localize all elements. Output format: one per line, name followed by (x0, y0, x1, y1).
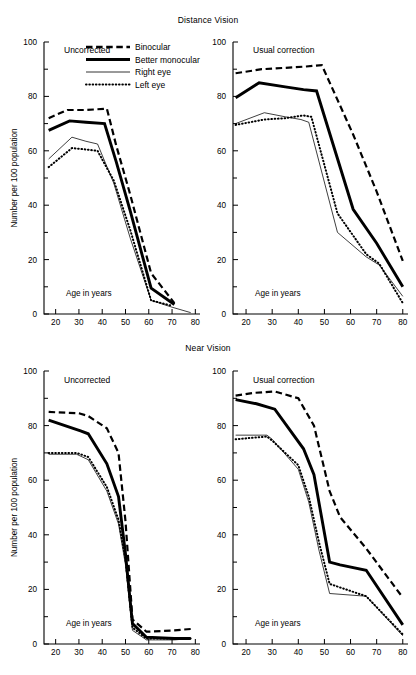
x-tick-label: 50 (320, 318, 330, 327)
x-tick-label: 30 (268, 648, 278, 657)
series-line-right-eye (236, 113, 403, 297)
y-tick-label: 100 (212, 38, 226, 47)
x-axis-title: Age in years (255, 619, 301, 628)
x-tick-label: 30 (74, 648, 84, 657)
y-tick-label: 80 (28, 92, 38, 101)
y-tick-label: 40 (28, 531, 38, 540)
series-line-left-eye (236, 115, 403, 303)
y-tick-label: 20 (217, 256, 227, 265)
series-line-left-eye (236, 437, 403, 635)
y-tick-label: 40 (217, 531, 227, 540)
y-tick-label: 100 (23, 38, 37, 47)
x-tick-label: 60 (144, 318, 154, 327)
x-tick-label: 80 (398, 648, 408, 657)
series-line-left-eye (49, 453, 191, 639)
x-tick-label: 20 (242, 318, 252, 327)
x-axis-title: Age in years (66, 289, 112, 298)
y-tick-label: 0 (221, 310, 226, 319)
y-tick-label: 0 (32, 310, 37, 319)
y-tick-label: 60 (28, 147, 38, 156)
x-tick-label: 60 (346, 318, 356, 327)
x-tick-label: 20 (51, 318, 61, 327)
x-tick-label: 60 (144, 648, 154, 657)
y-tick-label: 40 (217, 201, 227, 210)
x-axis-title: Age in years (255, 289, 301, 298)
x-tick-label: 50 (121, 318, 131, 327)
series-line-better-monocular (236, 400, 403, 625)
y-tick-label: 20 (217, 585, 227, 594)
x-tick-label: 80 (191, 648, 201, 657)
chart-svg: 02040608010020304050607080UncorrectedAge… (0, 0, 416, 675)
x-tick-label: 80 (398, 318, 408, 327)
legend-label-right_eye: Right eye (135, 67, 171, 77)
y-tick-label: 0 (221, 640, 226, 649)
series-line-right-eye (49, 137, 191, 312)
series-line-binocular (49, 109, 175, 303)
y-tick-label: 100 (23, 367, 37, 376)
y-tick-label: 40 (28, 201, 38, 210)
axis-lines (44, 371, 200, 644)
y-tick-label: 80 (217, 92, 227, 101)
x-tick-label: 40 (294, 648, 304, 657)
figure-root: Distance Vision Near Vision 020406080100… (0, 0, 416, 675)
panel-dist-cor: 02040608010020304050607080Usual correcti… (212, 38, 408, 327)
y-tick-label: 80 (28, 422, 38, 431)
panel-near-cor: 02040608010020304050607080Usual correcti… (212, 367, 408, 657)
x-tick-label: 30 (74, 318, 84, 327)
panel-label-near-cor: Usual correction (253, 375, 315, 385)
y-tick-label: 100 (212, 367, 226, 376)
series-line-binocular (236, 391, 403, 597)
panel-dist-unc: 02040608010020304050607080UncorrectedAge… (10, 38, 200, 327)
series-line-better-monocular (49, 121, 175, 305)
x-tick-label: 40 (294, 318, 304, 327)
panel-label-near-unc: Uncorrected (64, 375, 111, 385)
y-tick-label: 20 (28, 585, 38, 594)
x-axis-title: Age in years (66, 619, 112, 628)
x-tick-label: 40 (98, 318, 108, 327)
y-tick-label: 0 (32, 640, 37, 649)
x-tick-label: 80 (191, 318, 201, 327)
x-tick-label: 60 (346, 648, 356, 657)
x-tick-label: 20 (51, 648, 61, 657)
panel-near-unc: 02040608010020304050607080UncorrectedAge… (10, 367, 200, 657)
y-tick-label: 80 (217, 422, 227, 431)
series-line-left-eye (49, 148, 172, 306)
series-line-right-eye (49, 454, 191, 640)
y-tick-label: 60 (28, 476, 38, 485)
x-tick-label: 70 (372, 648, 382, 657)
series-line-better-monocular (236, 83, 403, 287)
x-tick-label: 50 (320, 648, 330, 657)
y-tick-label: 60 (217, 147, 227, 156)
x-tick-label: 50 (121, 648, 131, 657)
y-tick-label: 20 (28, 256, 38, 265)
x-tick-label: 70 (168, 648, 178, 657)
legend-label-binocular: Binocular (135, 42, 171, 52)
x-tick-label: 70 (168, 318, 178, 327)
y-tick-label: 60 (217, 476, 227, 485)
panel-label-dist-cor: Usual correction (253, 45, 315, 55)
legend-label-better_monocular: Better monocular (135, 55, 200, 65)
legend-label-left_eye: Left eye (135, 80, 166, 90)
x-tick-label: 20 (242, 648, 252, 657)
y-axis-title: Number per 100 population (10, 128, 19, 228)
x-tick-label: 30 (268, 318, 278, 327)
series-line-right-eye (236, 435, 403, 636)
y-axis-title: Number per 100 population (10, 457, 19, 557)
x-tick-label: 40 (98, 648, 108, 657)
x-tick-label: 70 (372, 318, 382, 327)
